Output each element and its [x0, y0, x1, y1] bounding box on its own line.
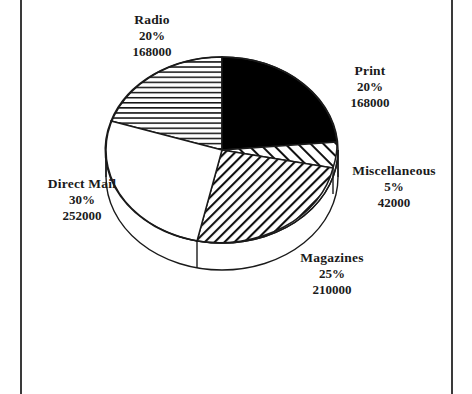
pie-label-direct-mail-name: Direct Mail: [22, 176, 142, 192]
pie-label-radio-percent: 20%: [92, 28, 212, 44]
pie-label-print-name: Print: [315, 63, 425, 79]
pie-label-print: Print 20% 168000: [315, 63, 425, 111]
pie-label-magazines-value: 210000: [272, 282, 392, 298]
pie-label-direct-mail-percent: 30%: [22, 192, 142, 208]
pie-label-print-value: 168000: [315, 95, 425, 111]
pie-chart-page: Radio 20% 168000 Print 20% 168000 Miscel…: [0, 0, 472, 394]
pie-label-miscellaneous: Miscellaneous 5% 42000: [335, 163, 453, 211]
pie-label-radio-value: 168000: [92, 44, 212, 60]
pie-label-radio: Radio 20% 168000: [92, 12, 212, 60]
pie-label-direct-mail-value: 252000: [22, 208, 142, 224]
pie-label-magazines: Magazines 25% 210000: [272, 250, 392, 298]
pie-label-miscellaneous-percent: 5%: [335, 179, 453, 195]
pie-label-radio-name: Radio: [92, 12, 212, 28]
pie-label-direct-mail: Direct Mail 30% 252000: [22, 176, 142, 224]
pie-label-miscellaneous-value: 42000: [335, 195, 453, 211]
pie-label-magazines-percent: 25%: [272, 266, 392, 282]
pie-label-magazines-name: Magazines: [272, 250, 392, 266]
pie-label-print-percent: 20%: [315, 79, 425, 95]
pie-label-miscellaneous-name: Miscellaneous: [335, 163, 453, 179]
